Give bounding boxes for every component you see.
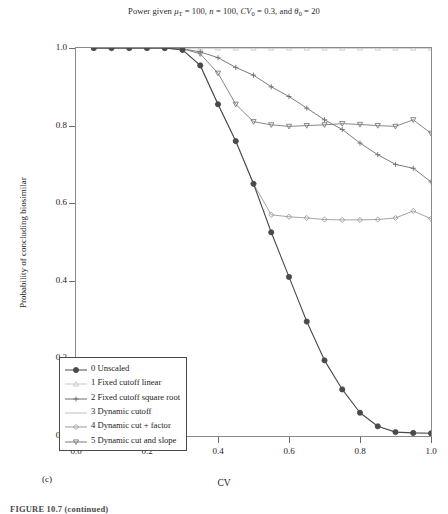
y-tick-mark — [69, 48, 75, 49]
x-tick-label: 0.8 — [338, 446, 382, 456]
x-axis-label: CV — [0, 478, 448, 488]
title-prefix: Power given — [128, 6, 174, 16]
series-5 — [91, 48, 431, 136]
title-symbol: CV — [241, 6, 252, 16]
y-tick-mark — [69, 126, 75, 127]
legend-item-3[interactable]: 3 Dynamic cutoff — [63, 404, 180, 418]
x-tick-mark — [289, 437, 290, 443]
x-tick-mark — [431, 437, 432, 443]
y-axis-label: Probability of concluding biosimilar — [18, 177, 28, 308]
legend-label: 4 Dynamic cut + factor — [89, 420, 171, 430]
legend-label: 5 Dynamic cut and slope — [89, 435, 176, 445]
legend-item-1[interactable]: 1 Fixed cutoff linear — [63, 375, 180, 389]
legend-marker-circle-icon — [63, 362, 89, 374]
title-value: = 100, — [182, 6, 209, 16]
title-value: = 20 — [302, 6, 320, 16]
panel-label: (c) — [42, 474, 52, 484]
legend-item-0[interactable]: 0 Unscaled — [63, 361, 180, 375]
y-tick-label: 0.8 — [29, 120, 67, 130]
legend-marker-line-icon — [63, 405, 89, 417]
legend-marker-triangle-down-icon — [63, 434, 89, 446]
figure-caption: FIGURE 10.7 (continued) — [10, 504, 108, 514]
y-tick-mark — [69, 281, 75, 282]
legend-marker-triangle-up-icon — [63, 376, 89, 388]
x-tick-mark — [218, 437, 219, 443]
x-tick-label: 0.4 — [196, 446, 240, 456]
series-2 — [91, 48, 431, 184]
y-tick-label: 1.0 — [29, 42, 67, 52]
series-4 — [91, 48, 431, 222]
legend-label: 2 Fixed cutoff square root — [89, 392, 180, 402]
legend-item-4[interactable]: 4 Dynamic cut + factor — [63, 418, 180, 432]
y-tick-mark — [69, 203, 75, 204]
x-tick-label: 1.0 — [409, 446, 448, 456]
title-value: = 0.3, and — [255, 6, 295, 16]
x-tick-mark — [360, 437, 361, 443]
legend: 0 Unscaled1 Fixed cutoff linear2 Fixed c… — [59, 357, 187, 451]
title-value: = 100, — [214, 6, 241, 16]
legend-item-2[interactable]: 2 Fixed cutoff square root — [63, 390, 180, 404]
chart-title: Power given μT = 100, n = 100, CV0 = 0.3… — [0, 6, 448, 17]
legend-label: 3 Dynamic cutoff — [89, 406, 151, 416]
legend-item-5[interactable]: 5 Dynamic cut and slope — [63, 432, 180, 446]
y-tick-label: 0.6 — [29, 197, 67, 207]
legend-label: 0 Unscaled — [89, 363, 129, 373]
legend-marker-plus-icon — [63, 391, 89, 403]
x-tick-label: 0.6 — [267, 446, 311, 456]
y-tick-label: 0.4 — [29, 275, 67, 285]
legend-label: 1 Fixed cutoff linear — [89, 377, 161, 387]
legend-marker-diamond-icon — [63, 419, 89, 431]
